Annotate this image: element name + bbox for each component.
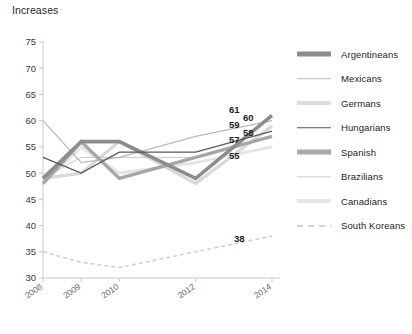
y-tick-label: 75 <box>25 36 36 47</box>
legend-swatch-icon <box>297 146 331 158</box>
legend-item-label: Mexicans <box>341 73 382 84</box>
y-tick-label: 55 <box>25 141 36 152</box>
y-tick-label: 30 <box>25 272 36 283</box>
end-value-label: 60 <box>243 112 254 123</box>
legend-item[interactable]: Brazilians <box>297 165 409 190</box>
legend-item[interactable]: South Koreans <box>297 214 409 239</box>
legend-swatch-icon <box>297 97 331 109</box>
y-tick-label: 65 <box>25 89 36 100</box>
legend-item[interactable]: Germans <box>297 91 409 116</box>
legend-swatch-icon <box>297 171 331 183</box>
end-value-label: 59 <box>229 119 240 130</box>
end-value-label: 38 <box>234 233 245 244</box>
y-tick-label: 40 <box>25 220 36 231</box>
y-tick-label: 50 <box>25 168 36 179</box>
x-tick-label: 2014 <box>252 281 273 300</box>
end-value-label: 55 <box>229 150 240 161</box>
legend-item-label: South Koreans <box>341 220 405 231</box>
legend-item-label: Canadians <box>341 196 387 207</box>
legend-swatch-icon <box>297 122 331 134</box>
legend-item-label: Hungarians <box>341 122 391 133</box>
legend-item-label: Germans <box>341 98 381 109</box>
legend-item[interactable]: Mexicans <box>297 67 409 92</box>
legend-swatch-icon <box>297 195 331 207</box>
y-axis: 30354045505560657075 <box>25 36 43 283</box>
y-tick-label: 35 <box>25 246 36 257</box>
end-value-label: 57 <box>229 134 240 145</box>
legend-item-label: Brazilians <box>341 171 383 182</box>
x-axis: 20082009201020122014 <box>23 278 280 300</box>
legend-swatch-icon <box>297 220 331 232</box>
x-tick-label: 2009 <box>61 281 82 300</box>
y-tick-label: 70 <box>25 63 36 74</box>
legend: ArgentineansMexicansGermansHungariansSpa… <box>297 42 409 238</box>
end-value-label: 61 <box>229 104 240 115</box>
x-tick-label: 2012 <box>176 281 197 300</box>
x-tick-label: 2008 <box>23 281 44 300</box>
x-tick-label: 2010 <box>99 281 120 300</box>
y-tick-label: 60 <box>25 115 36 126</box>
legend-item[interactable]: Spanish <box>297 140 409 165</box>
end-value-label: 58 <box>243 127 254 138</box>
legend-item[interactable]: Argentineans <box>297 42 409 67</box>
legend-item[interactable]: Canadians <box>297 189 409 214</box>
legend-item-label: Argentineans <box>341 49 398 60</box>
line-chart: Increases 30354045505560657075 200820092… <box>0 0 412 334</box>
y-tick-label: 45 <box>25 194 36 205</box>
legend-item[interactable]: Hungarians <box>297 116 409 141</box>
legend-item-label: Spanish <box>341 147 376 158</box>
legend-swatch-icon <box>297 73 331 85</box>
legend-swatch-icon <box>297 48 331 60</box>
